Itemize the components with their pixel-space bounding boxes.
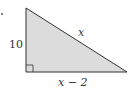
vertical-leg-label: 10: [9, 39, 23, 50]
bullet-dot: [1, 13, 3, 15]
hypotenuse-label: x: [78, 27, 84, 38]
base-label: x − 2: [58, 77, 87, 88]
right-triangle: [26, 8, 127, 72]
